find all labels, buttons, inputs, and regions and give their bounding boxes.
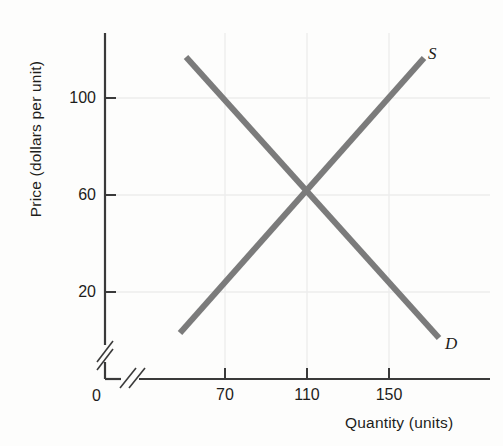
vertical-gridlines [225, 33, 389, 379]
chart-canvas [0, 0, 503, 446]
supply-curve-label: S [428, 44, 437, 64]
xtick-label-110: 110 [294, 386, 320, 404]
ytick-label-20: 20 [78, 283, 96, 301]
x-axis-ticks [225, 368, 389, 379]
x-axis-title: Quantity (units) [345, 414, 453, 432]
ytick-label-60: 60 [78, 186, 96, 204]
y-axis-ticks [105, 98, 116, 292]
origin-label: 0 [92, 387, 101, 405]
ytick-label-100: 100 [69, 89, 96, 107]
xtick-label-150: 150 [376, 386, 403, 404]
horizontal-gridlines [105, 98, 490, 292]
supply-demand-chart: Price (dollars per unit) Quantity (units… [0, 0, 503, 446]
demand-curve-label: D [445, 334, 457, 354]
demand-curve [186, 57, 439, 338]
y-axis-title: Price (dollars per unit) [27, 39, 45, 239]
xtick-label-70: 70 [216, 386, 234, 404]
